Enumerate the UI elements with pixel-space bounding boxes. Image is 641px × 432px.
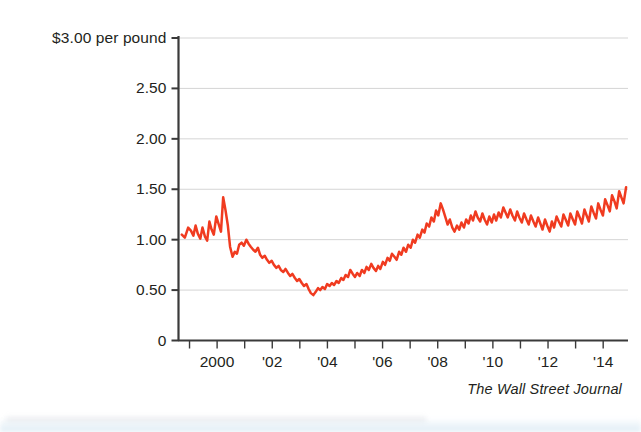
y-axis-tick-label: 2.00 bbox=[136, 130, 167, 148]
x-axis-tick-label: '04 bbox=[317, 353, 338, 371]
x-axis-tick-label: 2000 bbox=[200, 353, 235, 371]
x-axis-tick-label: '14 bbox=[593, 353, 614, 371]
y-axis-tick-label: 0.50 bbox=[136, 281, 167, 299]
y-axis-tick-label: 1.50 bbox=[136, 180, 167, 198]
x-axis-tick-label: '12 bbox=[538, 353, 559, 371]
chart-figure: $3.00 per pound2.502.001.501.000.500 200… bbox=[0, 0, 641, 432]
y-axis-tick-label: 2.50 bbox=[136, 79, 167, 97]
y-axis-tick-label: 0 bbox=[158, 332, 167, 350]
y-axis-tick-label: 1.00 bbox=[136, 231, 167, 249]
x-axis-tick-label: '08 bbox=[427, 353, 448, 371]
price-series-line bbox=[182, 187, 626, 295]
y-axis-tick-label: $3.00 per pound bbox=[52, 29, 166, 47]
scan-artifact bbox=[0, 418, 641, 432]
x-axis-tick-label: '06 bbox=[372, 353, 393, 371]
x-axis-tick-label: '02 bbox=[262, 353, 283, 371]
x-axis-ticks bbox=[190, 341, 604, 349]
x-axis-tick-label: '10 bbox=[483, 353, 504, 371]
source-credit: The Wall Street Journal bbox=[467, 381, 622, 397]
